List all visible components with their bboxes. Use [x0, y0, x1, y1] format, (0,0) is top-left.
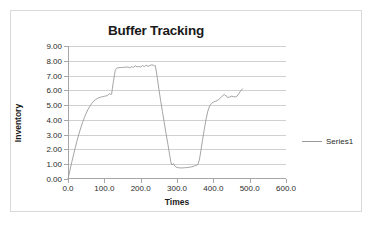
x-tick	[68, 179, 69, 183]
y-tick	[64, 105, 68, 106]
series-line-series1	[68, 46, 286, 179]
legend: Series1	[302, 137, 353, 146]
y-tick-label: 6.00	[46, 86, 62, 95]
y-tick-label: 9.00	[46, 42, 62, 51]
x-tick	[213, 179, 214, 183]
y-tick	[64, 76, 68, 77]
y-tick	[64, 135, 68, 136]
x-tick-label: 600.0	[276, 184, 296, 193]
y-tick-label: 8.00	[46, 56, 62, 65]
chart-card: Buffer Tracking Inventory Times 0.001.00…	[10, 10, 362, 212]
x-tick-label: 100.0	[94, 184, 114, 193]
plot-area: 0.001.002.003.004.005.006.007.008.009.00…	[68, 46, 286, 179]
y-tick-label: 2.00	[46, 145, 62, 154]
legend-label-series1: Series1	[326, 137, 353, 146]
x-tick-label: 400.0	[203, 184, 223, 193]
y-tick-label: 1.00	[46, 160, 62, 169]
x-axis-title: Times	[68, 197, 286, 207]
x-tick-label: 500.0	[240, 184, 260, 193]
x-tick-label: 0.0	[62, 184, 73, 193]
y-tick-label: 0.00	[46, 175, 62, 184]
chart-title: Buffer Tracking	[11, 23, 301, 38]
y-tick	[64, 149, 68, 150]
y-tick	[64, 90, 68, 91]
y-tick	[64, 164, 68, 165]
x-tick-label: 200.0	[131, 184, 151, 193]
legend-swatch-series1	[302, 141, 322, 142]
x-tick	[286, 179, 287, 183]
x-tick	[177, 179, 178, 183]
y-tick	[64, 46, 68, 47]
y-tick-label: 7.00	[46, 71, 62, 80]
y-tick	[64, 120, 68, 121]
y-tick-label: 3.00	[46, 130, 62, 139]
y-axis-title: Inventory	[13, 104, 23, 142]
y-tick-label: 4.00	[46, 115, 62, 124]
x-tick	[250, 179, 251, 183]
y-tick	[64, 61, 68, 62]
x-tick	[141, 179, 142, 183]
y-tick-label: 5.00	[46, 101, 62, 110]
x-tick	[104, 179, 105, 183]
x-tick-label: 300.0	[167, 184, 187, 193]
